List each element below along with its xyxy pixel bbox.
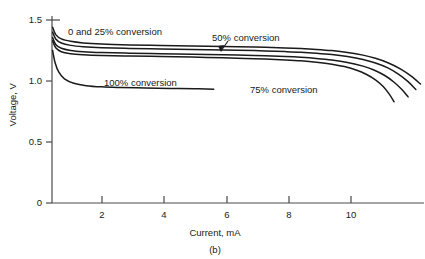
y-axis-title: Voltage, V: [8, 75, 18, 135]
x-tick-label-8: 8: [279, 210, 299, 220]
x-tick-label-10: 10: [341, 210, 361, 220]
x-tick-label-4: 4: [154, 210, 174, 220]
y-tick-label-1-5: 1.5: [12, 15, 42, 25]
figure-container: 0 0.5 1.0 1.5 2 4 6 8 10 Voltage, V Curr…: [0, 0, 425, 259]
curve-label-0-and-25-conversion: 0 and 25% conversion: [68, 27, 162, 37]
y-tick-label-0: 0: [12, 198, 42, 208]
y-tick-label-0-5: 0.5: [12, 137, 42, 147]
figure-caption: (b): [160, 245, 270, 255]
curve-label-100-conversion: 100% conversion: [104, 78, 177, 88]
x-tick-label-6: 6: [217, 210, 237, 220]
x-axis-ticks: [102, 196, 351, 203]
x-axis-title: Current, mA: [160, 228, 270, 238]
y-axis-ticks: [46, 20, 60, 203]
curve-label-75-conversion: 75% conversion: [250, 85, 318, 95]
x-tick-label-2: 2: [92, 210, 112, 220]
curve-label-50-conversion: 50% conversion: [212, 33, 280, 43]
